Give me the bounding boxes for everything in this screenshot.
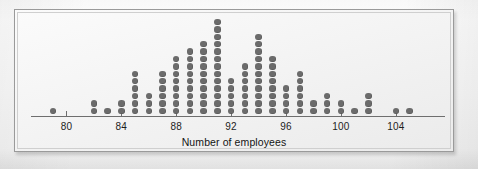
x-axis-line: [31, 116, 445, 117]
data-dot: [365, 108, 371, 114]
data-dot: [146, 93, 152, 99]
data-dot: [324, 100, 330, 106]
data-dot: [50, 108, 56, 114]
data-dot: [173, 100, 179, 106]
data-dot: [173, 108, 179, 114]
x-axis-tick-label: 100: [332, 121, 349, 132]
data-dot: [269, 78, 275, 84]
x-axis-tick-label: 84: [116, 121, 128, 132]
data-dot: [228, 108, 234, 114]
data-dot: [214, 63, 220, 69]
data-dot: [283, 108, 289, 114]
data-dot: [187, 78, 193, 84]
data-dot: [310, 100, 316, 106]
x-axis-title: Number of employees: [15, 136, 453, 148]
data-dot: [255, 100, 261, 106]
data-dot: [200, 63, 206, 69]
data-dot: [365, 100, 371, 106]
data-dot: [159, 78, 165, 84]
data-dot: [283, 100, 289, 106]
data-dot: [255, 41, 261, 47]
x-axis-tick: [66, 111, 67, 117]
data-dot: [255, 34, 261, 40]
data-dot: [91, 100, 97, 106]
data-dot: [242, 71, 248, 77]
data-dot: [393, 108, 399, 114]
data-dot: [283, 93, 289, 99]
data-dot: [159, 85, 165, 91]
data-dot: [338, 100, 344, 106]
data-dot: [228, 93, 234, 99]
data-dot: [255, 71, 261, 77]
data-dot: [297, 71, 303, 77]
data-dot: [146, 100, 152, 106]
data-dot: [187, 56, 193, 62]
data-dot: [187, 93, 193, 99]
data-dot: [351, 108, 357, 114]
data-dot: [297, 78, 303, 84]
x-axis-tick-label: 96: [280, 121, 292, 132]
data-dot: [214, 100, 220, 106]
data-dot: [242, 108, 248, 114]
data-dot: [242, 78, 248, 84]
plot-frame: 8084889296100104 Number of employees: [14, 9, 454, 152]
data-dot: [187, 63, 193, 69]
data-dot: [269, 71, 275, 77]
data-dot: [91, 108, 97, 114]
data-dot: [200, 71, 206, 77]
data-dot: [214, 85, 220, 91]
data-dot: [255, 108, 261, 114]
data-dot: [200, 108, 206, 114]
data-dot: [242, 93, 248, 99]
data-dot: [214, 19, 220, 25]
data-dot: [187, 100, 193, 106]
data-dot: [132, 108, 138, 114]
data-dot: [324, 93, 330, 99]
data-dot: [173, 78, 179, 84]
data-dot: [214, 78, 220, 84]
data-dot: [200, 78, 206, 84]
data-dot: [242, 63, 248, 69]
x-axis-tick-label: 88: [170, 121, 182, 132]
data-dot: [255, 85, 261, 91]
data-dot: [132, 100, 138, 106]
data-dot: [200, 41, 206, 47]
data-dot: [173, 71, 179, 77]
data-dot: [365, 93, 371, 99]
data-dot: [214, 41, 220, 47]
data-dot: [118, 100, 124, 106]
data-dot: [187, 71, 193, 77]
data-dot: [200, 85, 206, 91]
data-dot: [242, 85, 248, 91]
data-dot: [228, 78, 234, 84]
data-dot: [338, 108, 344, 114]
data-dot: [269, 63, 275, 69]
dot-plot-area: 8084889296100104: [15, 10, 453, 151]
data-dot: [173, 93, 179, 99]
data-dot: [255, 56, 261, 62]
data-dot: [214, 48, 220, 54]
data-dot: [104, 108, 110, 114]
data-dot: [310, 108, 316, 114]
data-dot: [228, 100, 234, 106]
data-dot: [173, 63, 179, 69]
data-dot: [283, 85, 289, 91]
data-dot: [214, 108, 220, 114]
data-dot: [255, 78, 261, 84]
data-dot: [269, 108, 275, 114]
x-axis-tick-label: 104: [387, 121, 404, 132]
data-dot: [214, 26, 220, 32]
data-dot: [242, 100, 248, 106]
data-dot: [159, 108, 165, 114]
data-dot: [146, 108, 152, 114]
data-dot: [406, 108, 412, 114]
data-dot: [297, 108, 303, 114]
data-dot: [200, 93, 206, 99]
data-dot: [200, 56, 206, 62]
data-dot: [159, 71, 165, 77]
data-dot: [297, 93, 303, 99]
figure-root: 8084889296100104 Number of employees: [0, 0, 478, 169]
data-dot: [159, 100, 165, 106]
data-dot: [200, 48, 206, 54]
data-dot: [297, 100, 303, 106]
